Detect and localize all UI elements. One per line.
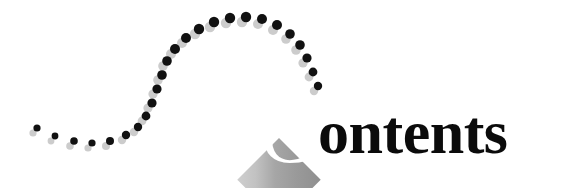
trail-dot xyxy=(152,84,161,93)
trail-dot xyxy=(309,68,318,77)
trail-dot xyxy=(194,24,204,34)
trail-dot xyxy=(181,33,191,43)
trail-dot xyxy=(106,137,114,145)
diamond-badge: C xyxy=(230,88,330,188)
trail-dot xyxy=(142,112,151,121)
trail-dot xyxy=(33,124,40,131)
drop-cap-letter-c: C xyxy=(261,94,312,178)
trail-dot xyxy=(88,139,95,146)
trail-dot xyxy=(147,98,156,107)
trail-dot xyxy=(272,20,282,30)
trail-dot xyxy=(162,56,172,66)
page-title: ontents xyxy=(318,101,507,163)
trail-dot xyxy=(157,70,167,80)
trail-dot xyxy=(209,17,219,27)
trail-dot xyxy=(302,53,311,62)
trail-dot xyxy=(225,13,235,23)
trail-dot xyxy=(285,29,295,39)
trail-dot xyxy=(52,133,59,140)
trail-dot xyxy=(134,123,142,131)
trail-dot xyxy=(122,131,130,139)
contents-header-banner: C ontents xyxy=(0,0,567,192)
trail-dot xyxy=(257,14,267,24)
trail-dot xyxy=(241,12,251,22)
trail-dot xyxy=(70,137,78,145)
trail-dot xyxy=(170,44,180,54)
trail-dot xyxy=(295,40,305,50)
